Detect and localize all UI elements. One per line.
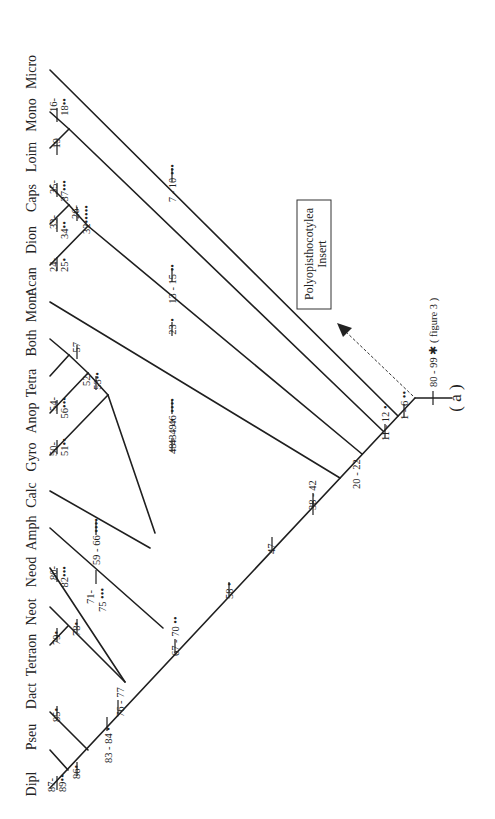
taxon-neod: Neod bbox=[24, 557, 39, 587]
char-79: 79• bbox=[51, 631, 62, 646]
taxon-caps: Caps bbox=[24, 184, 39, 212]
taxon-dipl: Dipl bbox=[24, 771, 39, 796]
taxon-micro: Micro bbox=[24, 55, 39, 89]
char-87-89a: 87- bbox=[46, 778, 57, 793]
taxon-anop: Anop bbox=[24, 402, 39, 433]
taxon-mono: Mono bbox=[24, 98, 39, 131]
tree-branches bbox=[50, 70, 452, 788]
taxon-loim: Loim bbox=[24, 142, 39, 172]
taxon-gyro: Gyro bbox=[24, 443, 39, 472]
char-24-25b: 25• bbox=[59, 258, 70, 273]
char-23: 23 • bbox=[167, 318, 178, 335]
taxon-tetra: Tetra bbox=[24, 368, 39, 397]
char-50-51a: 50- bbox=[48, 442, 59, 457]
taxon-dact: Dact bbox=[24, 683, 39, 710]
taxon-neot: Neot bbox=[24, 598, 39, 625]
taxon-mont: Mont bbox=[24, 292, 39, 322]
taxon-both: Both bbox=[24, 329, 39, 356]
char-83-84: 83 - 84 • bbox=[103, 727, 114, 763]
char-78: 78• bbox=[71, 622, 82, 637]
char-54-56a: 54- bbox=[48, 397, 59, 412]
root-char-label: 80 - 99 ✱ ( figure 3 ) bbox=[428, 297, 440, 387]
char-35-37b: 37••• bbox=[59, 180, 70, 202]
char-50-51b: 51•• bbox=[59, 438, 70, 456]
char-48-49: 48 - 49 • bbox=[167, 418, 178, 454]
char-35-37a: 35- bbox=[48, 180, 59, 195]
char-52-53a: 52- bbox=[81, 372, 92, 387]
char-16-18b: 18•• bbox=[59, 98, 70, 116]
char-87-89b: 89•• bbox=[57, 774, 68, 792]
taxon-pseu: Pseu bbox=[24, 724, 39, 750]
char-1-6: 1 - 6 •• bbox=[399, 390, 410, 420]
char-52-53b: 53•• bbox=[92, 372, 103, 390]
char-47: 47 bbox=[266, 544, 277, 555]
char-57: 57 bbox=[71, 342, 82, 353]
branch-both bbox=[50, 339, 69, 355]
character-labels: 16- 18•• 19 35- 37••• 26- 32••••• 33- 34… bbox=[46, 98, 440, 793]
char-13-15: 13 - 15 •• bbox=[167, 264, 178, 304]
taxon-calc: Calc bbox=[24, 482, 39, 508]
char-80-82a: 80- bbox=[48, 566, 59, 581]
panel-label: ( a ) bbox=[446, 384, 465, 411]
insert-box-line1: Polyopisthocotylea bbox=[302, 207, 316, 300]
char-16-18a: 16- bbox=[48, 98, 59, 113]
branch-tetra-both bbox=[69, 355, 88, 373]
branch-micro bbox=[50, 70, 398, 416]
char-67-70: 67 - 70 •• bbox=[170, 616, 181, 656]
branch-tetra bbox=[50, 355, 69, 376]
char-26-32b: 32••••• bbox=[81, 205, 92, 234]
taxon-labels: Micro Mono Loim Caps Dion Acan Mont Both… bbox=[24, 55, 39, 797]
insert-callout: Polyopisthocotylea Insert bbox=[297, 200, 413, 396]
char-76-77: 76 - 77 bbox=[115, 687, 126, 717]
char-24-25a: 24- bbox=[48, 258, 59, 273]
taxon-tetraon: Tetraon bbox=[24, 634, 39, 677]
char-20-22: 20 - 22 bbox=[351, 459, 362, 489]
char-19: 19 bbox=[51, 138, 62, 149]
branch-gyro-clade-stem bbox=[108, 395, 155, 533]
taxon-amph: Amph bbox=[24, 516, 39, 551]
char-7-10: 7 - 10 ••• bbox=[167, 164, 178, 202]
character-ticks bbox=[57, 108, 433, 790]
char-71-75a: 71- bbox=[85, 590, 96, 605]
char-71-75b: 75 ••• bbox=[97, 588, 108, 612]
char-85: 85• bbox=[51, 708, 62, 723]
char-26-32a: 26- bbox=[70, 205, 81, 220]
char-58: 58 • bbox=[224, 582, 235, 599]
branch-mono-loim-stem bbox=[69, 129, 383, 431]
char-80-82b: 82••• bbox=[59, 566, 70, 588]
char-33-34b: 34•• bbox=[59, 221, 70, 239]
insert-box-line2: Insert bbox=[315, 240, 329, 268]
branch-pseu bbox=[50, 750, 68, 770]
cladogram-figure: Micro Mono Loim Caps Dion Acan Mont Both… bbox=[0, 0, 495, 819]
char-11-12: 11 - 12 • bbox=[380, 405, 391, 441]
dashed-arrow-line bbox=[344, 330, 413, 396]
char-38-42: 38 - 42 bbox=[307, 480, 318, 510]
char-59-66: 59 - 66 •••• bbox=[91, 518, 102, 565]
taxon-dion: Dion bbox=[24, 226, 39, 254]
char-86: 86• bbox=[71, 765, 82, 780]
char-33-34a: 33- bbox=[48, 215, 59, 230]
char-54-56b: 56••• bbox=[59, 397, 70, 419]
